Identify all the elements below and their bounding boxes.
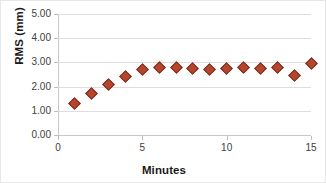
x-tick-mark bbox=[58, 136, 59, 140]
x-axis-title: Minutes bbox=[1, 164, 326, 176]
y-gridline bbox=[58, 62, 311, 63]
x-tick-mark bbox=[142, 136, 143, 140]
data-point-marker bbox=[85, 87, 98, 100]
y-tick-label: 0.00 bbox=[9, 130, 51, 140]
y-tick-label: 5.00 bbox=[9, 9, 51, 19]
y-gridline bbox=[58, 135, 311, 136]
x-tick-mark bbox=[311, 136, 312, 140]
chart-container: RMS (mm) Minutes 0.001.002.003.004.005.0… bbox=[0, 0, 326, 183]
y-tick-mark bbox=[54, 87, 58, 88]
y-tick-label: 1.00 bbox=[9, 106, 51, 116]
y-tick-label: 2.00 bbox=[9, 82, 51, 92]
y-tick-label: 4.00 bbox=[9, 33, 51, 43]
x-tick-label: 10 bbox=[212, 142, 242, 153]
data-point-marker bbox=[119, 70, 132, 83]
data-point-marker bbox=[305, 57, 318, 70]
data-point-marker bbox=[220, 62, 233, 75]
y-tick-mark bbox=[54, 38, 58, 39]
plot-area bbox=[58, 14, 311, 135]
x-tick-label: 0 bbox=[43, 142, 73, 153]
y-tick-mark bbox=[54, 14, 58, 15]
y-tick-mark bbox=[54, 62, 58, 63]
data-point-marker bbox=[102, 78, 115, 91]
y-gridline bbox=[58, 38, 311, 39]
data-point-marker bbox=[254, 62, 267, 75]
y-gridline bbox=[58, 87, 311, 88]
data-point-marker bbox=[170, 62, 183, 75]
x-tick-label: 5 bbox=[127, 142, 157, 153]
y-gridline bbox=[58, 111, 311, 112]
data-point-marker bbox=[136, 63, 149, 76]
data-point-marker bbox=[187, 63, 200, 76]
y-gridline bbox=[58, 14, 311, 15]
x-tick-mark bbox=[227, 136, 228, 140]
data-point-marker bbox=[203, 63, 216, 76]
data-point-marker bbox=[288, 69, 301, 82]
x-tick-label: 15 bbox=[296, 142, 326, 153]
data-point-marker bbox=[68, 97, 81, 110]
y-tick-mark bbox=[54, 111, 58, 112]
y-tick-label: 3.00 bbox=[9, 57, 51, 67]
